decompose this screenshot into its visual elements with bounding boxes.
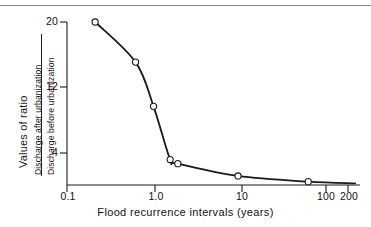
data-point-marker <box>305 179 311 185</box>
data-point-marker <box>132 59 138 65</box>
data-point-marker <box>92 19 98 25</box>
figure-container: Values of ratio Discharge after urbaniza… <box>0 0 371 227</box>
series-line <box>95 22 355 183</box>
data-point-marker <box>175 161 181 167</box>
plot-area <box>0 0 371 227</box>
data-point-marker <box>150 103 156 109</box>
data-point-marker <box>167 156 173 162</box>
data-point-marker <box>235 173 241 179</box>
data-series-urbanization-ratio <box>92 19 355 185</box>
